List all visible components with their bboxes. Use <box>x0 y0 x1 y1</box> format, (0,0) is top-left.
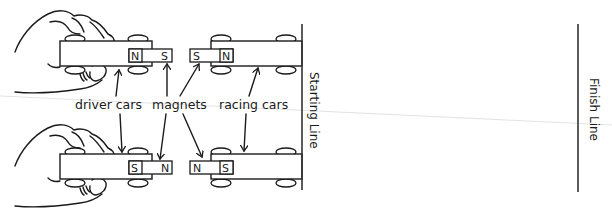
wheel <box>128 179 148 187</box>
arrow-racing-bottom <box>244 114 246 151</box>
wheel <box>276 179 296 187</box>
finish-line-label: Finish Line <box>587 78 601 141</box>
top-driver-magnet: N S <box>129 49 172 63</box>
arrow-racing-top <box>249 68 258 96</box>
arrow-magnet-bottom-right <box>183 114 202 157</box>
magnet-pole-label: N <box>222 50 230 63</box>
magnet-pole-label: N <box>131 50 139 63</box>
starting-line-label: Starting Line <box>307 72 321 149</box>
magnet-pole-label: N <box>193 162 201 175</box>
label-magnets: magnets <box>152 97 207 112</box>
wheel <box>65 179 85 187</box>
arrow-magnet-bottom-left <box>160 114 166 159</box>
arrow-driver-top <box>116 70 119 96</box>
bottom-driver-magnet: S N <box>129 161 172 175</box>
magnet-pole-label: S <box>193 50 200 63</box>
top-racing-magnet: S N <box>190 49 233 63</box>
arrow-magnet-top-right <box>180 64 199 96</box>
magnet-pole-label: S <box>161 50 168 63</box>
wheel <box>211 66 231 74</box>
wheel <box>276 66 296 74</box>
arrow-driver-bottom <box>120 114 122 152</box>
magnet-pole-label: S <box>222 162 229 175</box>
wheel <box>211 179 231 187</box>
label-racing-cars: racing cars <box>219 97 288 112</box>
wheel <box>65 66 85 74</box>
magnet-car-diagram: N S S N <box>0 0 612 211</box>
bottom-racing-magnet: N S <box>190 161 233 175</box>
magnet-pole-label: S <box>131 162 138 175</box>
wheel <box>128 66 148 74</box>
magnet-pole-label: N <box>161 162 169 175</box>
label-driver-cars: driver cars <box>75 97 142 112</box>
